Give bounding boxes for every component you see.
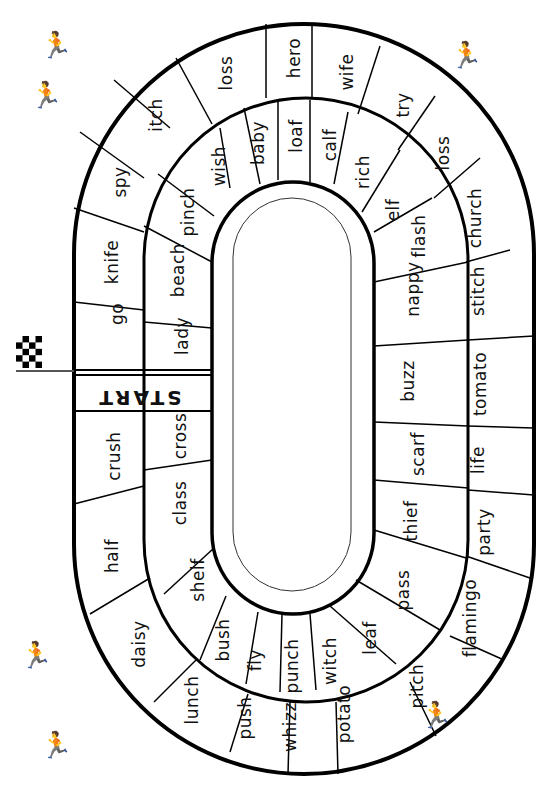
runner-top-left-2-icon: 🏃 [30, 80, 62, 110]
track-cell-party: party [476, 508, 493, 555]
track-cell-itch: itch [148, 98, 165, 132]
track-cell-loaf: loaf [288, 119, 305, 153]
track-cell-loss: loss [435, 136, 452, 171]
track-cell-punch: punch [284, 639, 301, 694]
track-cell-flash: flash [411, 214, 428, 257]
track-cell-wife: wife [339, 53, 356, 90]
track-cell-potato: potato [336, 685, 353, 743]
track-cell-nappy: nappy [405, 261, 422, 316]
race-track-board [0, 0, 548, 804]
track-cell-wish: wish [211, 146, 228, 186]
track-cell-flamingo: flamingo [462, 579, 479, 657]
track-cell-shelf: shelf [190, 558, 207, 601]
track-cell-daisy: daisy [131, 620, 148, 667]
track-cell-cross: cross [172, 413, 189, 460]
track-cell-leaf: leaf [362, 621, 379, 655]
track-cell-tomato: tomato [472, 352, 489, 416]
track-cell-lady: lady [174, 317, 191, 355]
track-cell-loss: loss [218, 56, 235, 91]
runners-bottom-right-icon: 🏃 [420, 700, 452, 730]
track-cell-baby: baby [250, 121, 267, 165]
track-cell-go: go [109, 303, 126, 325]
runner-bottom-left-2-icon: 🏃 [40, 730, 72, 760]
track-cell-hero: hero [286, 38, 303, 78]
track-cell-scarf: scarf [410, 432, 427, 476]
track-cell-witch: witch [322, 637, 339, 685]
track-cell-beach: beach [170, 243, 187, 297]
track-cell-class: class [172, 481, 189, 526]
track-cell-half: half [104, 539, 121, 573]
checkered-flag-icon [16, 336, 74, 371]
track-cell-church: church [467, 188, 484, 249]
track-cell-try: try [395, 92, 412, 117]
track-cell-crush: crush [106, 431, 123, 480]
track-cell-spy: spy [112, 166, 129, 197]
infield-line [233, 198, 351, 591]
track-cell-rich: rich [355, 155, 372, 189]
track-cell-calf: calf [322, 129, 339, 161]
track-cell-life: life [470, 446, 487, 474]
track-cell-pass: pass [395, 570, 412, 611]
runners-top-right-icon: 🏃 [450, 40, 482, 70]
track-cell-push: push [237, 696, 254, 739]
track-cell-thief: thief [403, 500, 420, 541]
track-cell-bush: bush [215, 618, 232, 661]
track-cell-stitch: stitch [470, 266, 487, 316]
track-cell-lunch: lunch [184, 676, 201, 725]
track-cell-elf: elf [385, 199, 402, 222]
track-cell-buzz: buzz [400, 360, 417, 401]
track-cell-fly: fly [247, 649, 264, 671]
track-cell-knife: knife [104, 240, 121, 284]
runner-bottom-left-icon: 🏃 [20, 640, 52, 670]
runner-top-left-icon: 🏃 [40, 30, 72, 60]
track-cell-pinch: pinch [180, 188, 197, 237]
start-label: START [96, 386, 181, 410]
track-cell-whizz: whizz [282, 702, 299, 752]
